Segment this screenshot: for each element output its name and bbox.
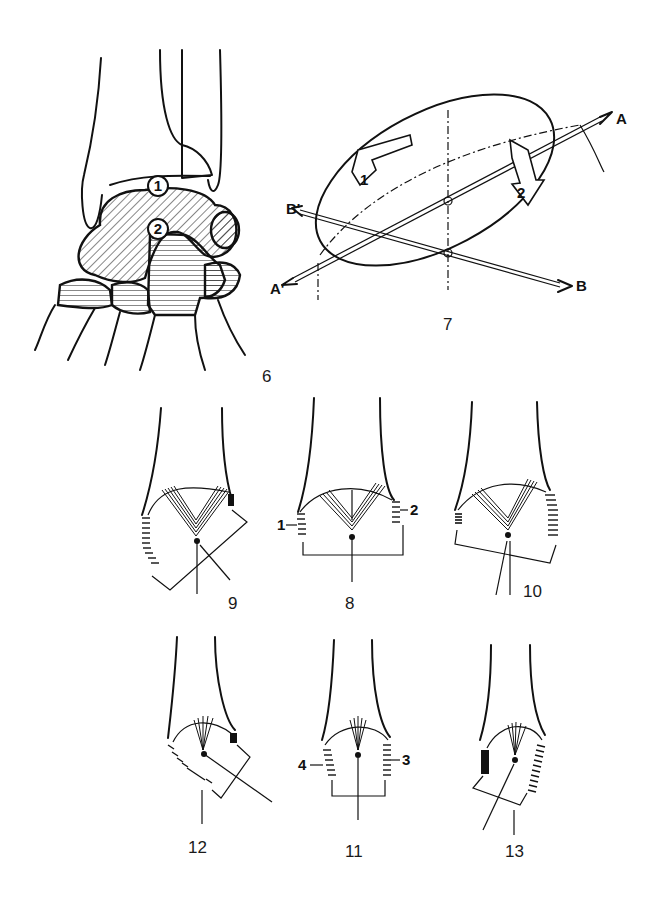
axis-label-b-prime: B' (286, 200, 300, 217)
fig6-circle-1: 1 (154, 177, 162, 194)
fig8-label-1: 1 (277, 516, 285, 533)
figure-11-flexion: 4 3 11 (298, 640, 410, 861)
figure-13-ulnar-deviation-flexion: 13 (473, 645, 545, 861)
axis-label-a-bottom: A' (270, 280, 284, 297)
wrist-diagram-canvas: 1 2 6 1 2 A A' B B' 7 (0, 0, 664, 902)
figure-10-number: 10 (523, 582, 542, 601)
figure-10-ulnar-deviation: 10 (455, 402, 558, 601)
axis-label-a-top: A (616, 110, 627, 127)
figure-7-number: 7 (443, 315, 452, 334)
fig11-label-4: 4 (298, 756, 307, 773)
fig6-circle-2: 2 (154, 220, 162, 237)
figure-7-ellipsoid-axes: 1 2 A A' B B' 7 (270, 59, 627, 334)
figure-6-carpal-bones: 1 2 6 (35, 50, 271, 386)
figure-6-number: 6 (262, 367, 271, 386)
rotation-arrow-1: 1 (360, 171, 368, 188)
figure-12-number: 12 (188, 838, 207, 857)
figure-12-radial-deviation-flexion: 12 (168, 637, 272, 857)
axis-label-b: B (576, 277, 587, 294)
figure-8-number: 8 (345, 594, 354, 613)
figure-11-number: 11 (345, 842, 363, 861)
fig11-label-3: 3 (402, 751, 410, 768)
rotation-arrow-2: 2 (517, 184, 525, 201)
figure-13-number: 13 (505, 842, 524, 861)
fig8-label-2: 2 (410, 501, 418, 518)
figure-9-radial-deviation: 9 (142, 408, 247, 613)
figure-9-number: 9 (228, 594, 237, 613)
figure-8-neutral-position: 1 2 8 (277, 398, 418, 613)
